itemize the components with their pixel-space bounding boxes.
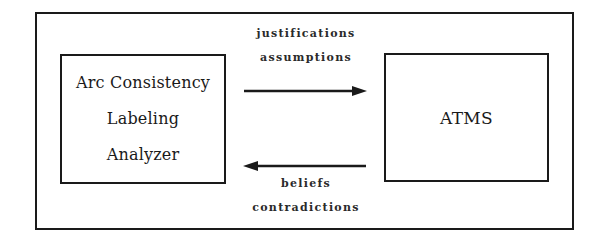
bottom-arrow-label-beliefs: beliefs xyxy=(226,177,386,190)
atms-box: ATMS xyxy=(384,53,549,182)
right-arrow-icon xyxy=(240,84,370,98)
top-arrow-label-assumptions: assumptions xyxy=(226,51,386,64)
atms-label: ATMS xyxy=(440,108,493,128)
left-box-line-2: Labeling xyxy=(107,101,179,137)
left-box-line-3: Analyzer xyxy=(107,137,180,173)
bottom-arrow-label-contradictions: contradictions xyxy=(226,201,386,214)
left-box-line-1: Arc Consistency xyxy=(76,65,210,101)
top-arrow-label-justifications: justifications xyxy=(226,27,386,40)
arc-consistency-labeling-analyzer-box: Arc Consistency Labeling Analyzer xyxy=(60,54,226,184)
left-arrow-icon xyxy=(240,159,370,173)
